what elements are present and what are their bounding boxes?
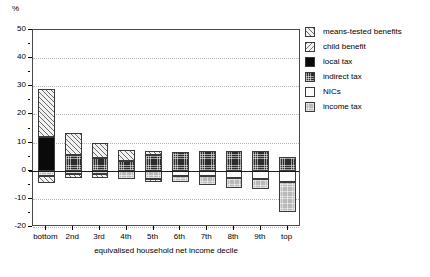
bar-segment xyxy=(279,157,296,171)
legend-item: income tax xyxy=(305,99,402,114)
bar-segment xyxy=(38,176,55,183)
bar-segment xyxy=(92,174,109,178)
x-tick-label: top xyxy=(267,232,307,241)
bar-segment xyxy=(279,182,296,212)
legend-label: local tax xyxy=(323,57,352,66)
y-tick-label: -20 xyxy=(4,222,26,230)
legend-item: local tax xyxy=(305,54,402,69)
bar-segment xyxy=(252,179,269,189)
legend-item: child benefit xyxy=(305,39,402,54)
bar-segment xyxy=(65,155,82,170)
bar-7th xyxy=(199,30,216,227)
y-tick-label: 40 xyxy=(4,53,26,61)
y-tick-minor xyxy=(28,156,30,157)
y-tick-label: 50 xyxy=(4,25,26,33)
legend-label: income tax xyxy=(323,102,362,111)
bar-8th xyxy=(226,30,243,227)
y-tick-label: 10 xyxy=(4,138,26,146)
y-tick-minor xyxy=(28,43,30,44)
bar-segment xyxy=(118,171,135,179)
x-tick xyxy=(233,226,234,230)
bar-segment xyxy=(118,150,135,161)
x-tick xyxy=(126,226,127,230)
bar-2nd xyxy=(65,30,82,227)
bar-segment xyxy=(145,171,162,179)
zero-baseline xyxy=(29,171,299,172)
y-tick-label: 0 xyxy=(4,166,26,174)
plot-area xyxy=(32,29,300,226)
bar-segment xyxy=(92,143,109,158)
bar-segment xyxy=(226,171,243,178)
y-tick-minor xyxy=(28,184,30,185)
y-tick-minor xyxy=(28,212,30,213)
x-tick xyxy=(99,226,100,230)
x-tick xyxy=(179,226,180,230)
legend-label: indirect tax xyxy=(323,72,362,81)
y-tick-minor xyxy=(28,99,30,100)
bar-segment xyxy=(145,155,162,170)
x-tick xyxy=(45,226,46,230)
bar-segment xyxy=(279,171,296,182)
bar-segment xyxy=(199,176,216,184)
bar-segment xyxy=(199,151,216,171)
legend-item: indirect tax xyxy=(305,69,402,84)
bar-segment xyxy=(65,174,82,178)
legend-label: means-tested benefits xyxy=(323,27,402,36)
y-tick-minor xyxy=(28,128,30,129)
chart-figure: % 50403020100-10-20 bottom2nd3rd4th5th6t… xyxy=(0,0,430,277)
legend-item: NICs xyxy=(305,84,402,99)
legend-label: NICs xyxy=(323,87,341,96)
y-tick-minor xyxy=(28,71,30,72)
y-tick-label: 30 xyxy=(4,81,26,89)
bar-segment xyxy=(145,179,162,182)
nics-swatch xyxy=(305,87,315,97)
means-tested-benefits-swatch xyxy=(305,27,315,37)
bar-segment xyxy=(38,137,55,171)
x-tick xyxy=(206,226,207,230)
bar-segment xyxy=(118,161,135,171)
bar-segment xyxy=(172,152,189,170)
income-tax-swatch xyxy=(305,102,315,112)
bar-9th xyxy=(252,30,269,227)
x-axis-title: equivalised household net income decile xyxy=(32,246,300,255)
y-tick-major xyxy=(28,226,32,227)
bar-3rd xyxy=(92,30,109,227)
bar-segment xyxy=(226,151,243,171)
y-tick-label: 20 xyxy=(4,109,26,117)
bar-4th xyxy=(118,30,135,227)
bar-segment xyxy=(38,89,55,137)
bar-top xyxy=(279,30,296,227)
bar-segment xyxy=(65,133,82,156)
child-benefit-swatch xyxy=(305,42,315,52)
y-tick-label: -10 xyxy=(4,194,26,202)
bar-segment xyxy=(252,171,269,179)
bar-segment xyxy=(92,158,109,171)
bar-segment xyxy=(252,151,269,171)
x-tick xyxy=(153,226,154,230)
bar-segment xyxy=(172,176,189,182)
bar-bottom xyxy=(38,30,55,227)
legend-item: means-tested benefits xyxy=(305,24,402,39)
y-axis-unit-label: % xyxy=(12,4,19,13)
bar-segment xyxy=(145,151,162,155)
legend-label: child benefit xyxy=(323,42,366,51)
chart-legend: means-tested benefitschild benefitlocal … xyxy=(305,24,402,114)
x-tick xyxy=(260,226,261,230)
x-tick xyxy=(72,226,73,230)
bar-6th xyxy=(172,30,189,227)
local-tax-swatch xyxy=(305,57,315,67)
bar-5th xyxy=(145,30,162,227)
x-tick xyxy=(287,226,288,230)
indirect-tax-swatch xyxy=(305,72,315,82)
bar-segment xyxy=(226,178,243,188)
